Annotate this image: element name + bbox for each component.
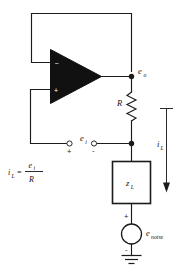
noise-source-label-main: e xyxy=(146,228,150,238)
current-arrow-head xyxy=(163,183,170,193)
input-voltage-label-sub: i xyxy=(85,139,87,145)
equation-lhs-sub: L xyxy=(10,173,14,179)
load-box xyxy=(113,162,151,204)
input-terminal-negative[interactable]: - xyxy=(91,141,96,155)
output-node-label: e o xyxy=(138,66,146,78)
equation-denominator: R xyxy=(28,175,34,184)
opamp-noninverting-sign: + xyxy=(54,87,58,94)
mid-node xyxy=(97,141,135,146)
equation-lhs: i xyxy=(8,168,10,177)
schematic-canvas: − + e o R + xyxy=(0,0,187,273)
noise-source: + - e noise xyxy=(122,204,164,255)
positive-terminal-sign: + xyxy=(67,147,72,156)
noise-source-label-sub: noise xyxy=(151,234,164,240)
opamp-symbol: − + xyxy=(51,50,102,104)
output-node-label-main: e xyxy=(138,66,142,76)
input-voltage-label-main: e xyxy=(80,133,84,143)
load-impedance: z L xyxy=(113,144,151,204)
resistor-label: R xyxy=(116,98,123,108)
load-current-arrow: i L xyxy=(157,109,173,193)
input-voltage-label: e i xyxy=(80,133,87,145)
equation-numerator-sub: i xyxy=(33,165,35,171)
noise-source-circle xyxy=(122,224,142,244)
opamp-inverting-sign: − xyxy=(55,60,59,67)
positive-terminal-circle[interactable] xyxy=(67,141,72,146)
output-wire xyxy=(102,74,135,79)
load-label-sub: L xyxy=(130,184,134,190)
output-node-label-sub: o xyxy=(143,72,146,78)
noise-source-negative-sign: - xyxy=(125,245,128,254)
current-equation: i L = e i R xyxy=(8,161,43,184)
load-label-main: z xyxy=(125,178,130,188)
equation-equals: = xyxy=(17,168,22,177)
noise-source-positive-sign: + xyxy=(124,212,129,221)
resistor-symbol: R xyxy=(116,77,136,144)
equation-numerator: e xyxy=(29,161,33,170)
load-current-label-sub: L xyxy=(159,145,163,151)
input-terminal-positive[interactable]: + xyxy=(67,141,72,156)
feedback-wire xyxy=(32,14,132,72)
negative-terminal-sign: - xyxy=(92,146,95,155)
circuit-diagram: − + e o R + xyxy=(0,0,187,273)
